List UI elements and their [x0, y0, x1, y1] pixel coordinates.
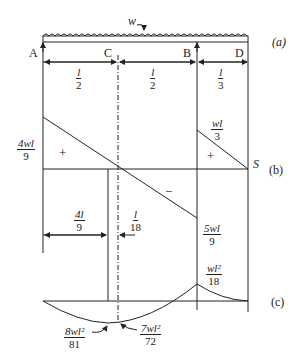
sf-line-ab — [43, 117, 197, 218]
distributed-load-icon — [43, 34, 247, 36]
shear-b-left-label: 5wl9 — [203, 222, 221, 247]
moment-at-c-label: 7wl²72 — [140, 322, 161, 347]
load-label: w — [128, 15, 136, 27]
support-label-b: B — [183, 47, 191, 59]
point-label-c: C — [104, 47, 112, 59]
point-label-d: D — [235, 47, 244, 59]
panel-label-b: (b) — [269, 164, 283, 176]
bm-curve — [43, 284, 248, 323]
beam — [43, 25, 248, 42]
moment-at-b-label: wl²18 — [206, 262, 222, 287]
positive-sign: + — [59, 146, 66, 159]
shear-end-label: S — [253, 158, 259, 170]
offset-distance-label: l18 — [130, 208, 141, 233]
load-pointer-icon — [137, 25, 144, 30]
negative-sign: − — [165, 185, 172, 198]
beam-diagram — [0, 0, 298, 362]
panel-label-c: (c) — [271, 296, 284, 308]
span-bd-label: l3 — [218, 66, 224, 91]
max-moment-label: 8wl²81 — [64, 325, 85, 350]
shear-at-a-label: 4wl9 — [17, 137, 35, 162]
panel-label-a: (a) — [272, 36, 286, 48]
support-label-a: A — [29, 47, 38, 59]
zero-shear-distance-label: 4l9 — [74, 208, 85, 233]
positive-sign-bd: + — [207, 149, 214, 162]
span-cb-label: l2 — [150, 66, 156, 91]
span-ac-label: l2 — [76, 66, 82, 91]
shear-b-right-label: wl3 — [211, 117, 223, 142]
